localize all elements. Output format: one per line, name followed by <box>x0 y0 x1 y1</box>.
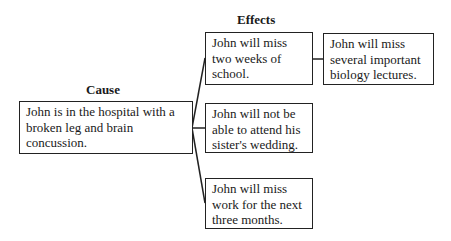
effect-box-2: John will not be able to attend his sist… <box>205 103 313 153</box>
connector-cause-effect-1 <box>192 58 205 128</box>
effect-box-3: John will miss work for the next three m… <box>205 178 313 229</box>
effect-box-1: John will miss two weeks of school. <box>205 32 313 85</box>
cause-heading: Cause <box>86 82 120 98</box>
cause-box: John is in the hospital with a broken le… <box>19 101 193 154</box>
connector-cause-effect-3 <box>192 128 205 203</box>
effects-heading: Effects <box>237 12 275 28</box>
secondary-effect-box: John will miss several important biology… <box>323 33 434 85</box>
